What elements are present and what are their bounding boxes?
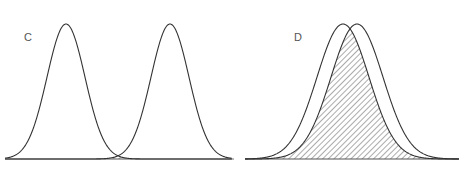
panel-c-overlap-hatch (5, 24, 232, 159)
overlap-diagram (0, 0, 459, 171)
panel-d (231, 24, 459, 159)
panel-c-right-curve (5, 24, 232, 159)
panel-c-left-curve (5, 24, 232, 159)
panel-c-label: C (24, 32, 32, 43)
panel-d-label: D (294, 32, 302, 43)
panel-c (5, 24, 232, 159)
panel-d-overlap-hatch (245, 24, 459, 159)
